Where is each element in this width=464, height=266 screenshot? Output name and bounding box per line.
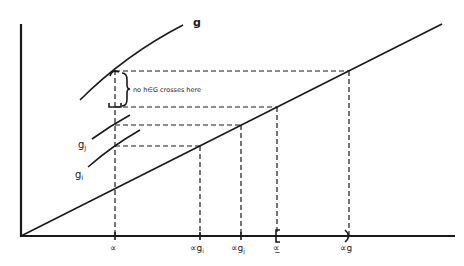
curve-g-label: g <box>193 16 201 29</box>
curve-gj-label: gj <box>78 139 86 152</box>
curve-gj <box>92 115 130 139</box>
tick-label-alpha: ∝ <box>110 243 116 253</box>
tick-label-alpha-bar: ∝̲ <box>273 243 280 253</box>
tick-label-alpha-gj: ∝gj <box>231 243 245 255</box>
tick-label-alpha-g: ∝g <box>340 243 352 253</box>
tick-label-alpha-gi-main: ∝g <box>190 243 202 253</box>
curve-gi-label-sub: i <box>81 174 83 182</box>
diagonal-line <box>21 24 442 236</box>
annotation-text: no h∈G crosses here <box>133 86 201 94</box>
tick-label-alpha-gi: ∝gi <box>190 243 204 254</box>
curly-brace <box>122 73 130 106</box>
tick-label-alpha-gi-sub: i <box>202 247 204 254</box>
tick-label-alpha-gj-main: ∝g <box>231 243 243 253</box>
curve-gi-label: gi <box>75 169 83 182</box>
diagram: g gj gi no h∈G crosses here ∝ ∝gi ∝gj ∝̲… <box>0 0 464 266</box>
curve-gj-label-sub: j <box>83 144 86 152</box>
tick-label-alpha-gj-sub: j <box>242 247 245 255</box>
